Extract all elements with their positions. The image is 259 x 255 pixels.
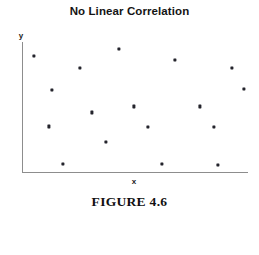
data-point bbox=[173, 58, 176, 61]
figure-container: No Linear Correlation y x FIGURE 4.6 bbox=[0, 0, 259, 255]
data-point bbox=[198, 105, 201, 108]
data-point bbox=[147, 126, 150, 129]
data-point bbox=[230, 66, 233, 69]
data-point bbox=[133, 105, 136, 108]
data-point bbox=[47, 125, 50, 128]
data-point bbox=[213, 126, 216, 129]
data-point bbox=[50, 88, 53, 91]
scatter-point-layer bbox=[0, 0, 259, 190]
plot-panel: y x bbox=[0, 0, 259, 190]
data-point bbox=[32, 54, 35, 57]
data-point bbox=[90, 111, 93, 114]
data-point bbox=[61, 162, 64, 165]
data-point bbox=[104, 141, 107, 144]
figure-caption: FIGURE 4.6 bbox=[0, 194, 259, 210]
data-point bbox=[78, 66, 81, 69]
data-point bbox=[117, 47, 120, 50]
data-point bbox=[160, 162, 163, 165]
data-point bbox=[242, 87, 245, 90]
data-point bbox=[216, 164, 219, 167]
